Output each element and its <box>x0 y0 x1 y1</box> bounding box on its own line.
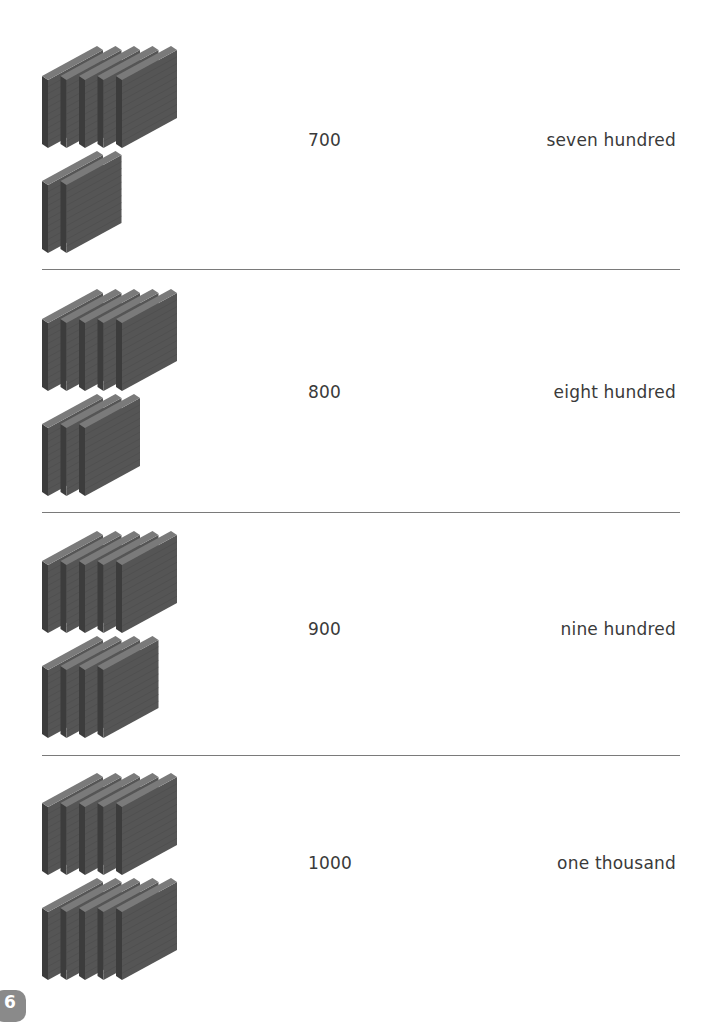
number-word-label: seven hundred <box>476 130 676 150</box>
hundreds-flats-drawing <box>40 772 200 1002</box>
hundreds-flats-group <box>40 45 200 275</box>
hundreds-flats-group <box>40 530 200 760</box>
hundreds-flats-group <box>40 772 200 1002</box>
numeral-label: 800 <box>308 382 341 402</box>
numeral-label: 1000 <box>308 853 352 873</box>
number-word-label: nine hundred <box>476 619 676 639</box>
number-word-label: one thousand <box>476 853 676 873</box>
number-word-label: eight hundred <box>476 382 676 402</box>
divider <box>42 269 680 270</box>
numeral-label: 900 <box>308 619 341 639</box>
hundreds-flats-group <box>40 288 200 518</box>
numeral-label: 700 <box>308 130 341 150</box>
divider <box>42 755 680 756</box>
hundreds-flats-drawing <box>40 288 200 518</box>
hundreds-flats-drawing <box>40 45 200 275</box>
page-number-badge: 6 <box>0 990 26 1022</box>
divider <box>42 512 680 513</box>
hundreds-flats-drawing <box>40 530 200 760</box>
page-number: 6 <box>4 992 16 1012</box>
